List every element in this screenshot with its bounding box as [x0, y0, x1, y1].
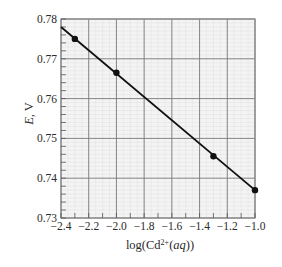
- x-tick-label: −2.2: [78, 220, 99, 232]
- x-axis-title: log(Cd2+(aq)): [126, 238, 194, 253]
- x-axis-tick-labels: −2.4−2.2−2.0−1.8−1.6−1.4−1.2−1.0: [51, 220, 266, 232]
- y-tick-label: 0.75: [37, 132, 57, 144]
- data-point-marker: [72, 36, 78, 42]
- x-axis-title-suffix: )): [186, 238, 194, 252]
- x-tick-label: −1.2: [217, 220, 238, 232]
- data-point-marker: [210, 153, 216, 159]
- y-tick-label: 0.76: [37, 93, 57, 105]
- x-tick-label: −2.0: [106, 220, 127, 232]
- y-tick-label: 0.77: [37, 53, 57, 65]
- x-tick-label: −1.0: [245, 220, 266, 232]
- y-axis-title-unit: , V: [22, 102, 36, 117]
- y-tick-label: 0.78: [37, 13, 57, 25]
- x-axis-title-italic: aq: [173, 238, 186, 252]
- data-point-marker: [252, 187, 258, 193]
- data-point-marker: [113, 70, 119, 76]
- x-tick-label: −1.4: [189, 220, 210, 232]
- x-tick-label: −1.8: [134, 220, 155, 232]
- x-tick-label: −1.6: [161, 220, 182, 232]
- x-tick-label: −2.4: [51, 220, 72, 232]
- y-axis-tick-labels: 0.730.740.750.760.770.78: [37, 13, 57, 224]
- y-tick-label: 0.74: [37, 172, 57, 184]
- chart: 0.730.740.750.760.770.78 −2.4−2.2−2.0−1.…: [0, 0, 282, 267]
- x-axis-title-prefix: log(Cd: [126, 238, 161, 252]
- y-axis-title: E, V: [22, 102, 36, 126]
